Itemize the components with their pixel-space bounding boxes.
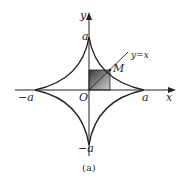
point-m-label: M: [112, 62, 125, 75]
y-axis-label: y: [79, 9, 87, 22]
figure-caption: (a): [82, 162, 96, 173]
bottom-cusp-label: −a: [78, 142, 94, 155]
point-m-marker: [109, 69, 112, 72]
x-axis-label: x: [166, 91, 173, 104]
y-axis-arrow-icon: [86, 12, 92, 20]
line-label: y=x: [130, 50, 149, 60]
origin-label: O: [79, 91, 88, 104]
right-cusp-label: a: [142, 91, 149, 104]
top-cusp-label: a: [82, 30, 89, 43]
left-cusp-label: −a: [18, 91, 34, 104]
astroid-diagram: y x a a −a −a O M y=x (a): [0, 0, 181, 187]
